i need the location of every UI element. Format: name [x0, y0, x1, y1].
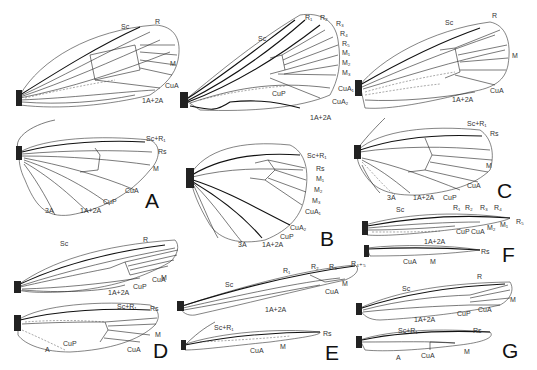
label-f-fw-cua: CuA — [471, 228, 485, 235]
label-b-hw-scr1: Sc+R₁ — [307, 152, 327, 159]
wing-e-hindwing — [181, 322, 320, 350]
label-c-hw-rs: Rs — [490, 130, 499, 137]
label-b-fw-r5: R₅ — [342, 40, 350, 47]
label-b-fw-r3: R₃ — [336, 20, 344, 27]
label-c-fw-r: R — [492, 12, 497, 19]
wing-g-hindwing — [356, 330, 491, 351]
label-f-fw-r3: R₃ — [480, 204, 488, 211]
label-b-fw-m3: M₃ — [342, 69, 351, 76]
label-e-fw-m: M — [342, 280, 348, 287]
wing-f-hindwing — [364, 245, 480, 257]
label-g-fw-cua: CuA — [478, 306, 492, 313]
label-f-fw-m2: M₂ — [487, 224, 496, 231]
wing-d-forewing — [14, 240, 178, 293]
label-f-fw-sc: Sc — [396, 206, 404, 213]
panel-letter-g: G — [502, 340, 518, 361]
label-b-hw-rs: Rs — [316, 165, 325, 172]
wing-b-hindwing — [186, 144, 307, 242]
panel-letter-f: F — [502, 244, 515, 265]
label-g-fw-r: R — [477, 273, 482, 280]
label-d-fw-cua: CuA — [152, 276, 166, 283]
label-c-hw-m: M — [486, 162, 492, 169]
label-b-fw-1a2a: 1A+2A — [310, 114, 331, 121]
label-f-fw-m1: M₁ — [500, 221, 508, 228]
label-e-hw-scr1: Sc+R₁ — [214, 324, 234, 331]
label-e-hw-rs: Rs — [323, 330, 332, 337]
label-c-fw-1a2a: 1A+2A — [452, 96, 473, 103]
label-g-hw-cua: CuA — [421, 352, 435, 359]
label-e-fw-cua: CuA — [325, 288, 339, 295]
wing-b-forewing — [180, 14, 340, 110]
label-d-fw-r: R — [143, 236, 148, 243]
label-d-hw-rs: Rs — [150, 305, 159, 312]
label-f-fw-cup: CuP — [456, 228, 470, 235]
label-a-hw-rs: Rs — [158, 148, 167, 155]
label-f-fw-1a2a: 1A+2A — [424, 238, 445, 245]
label-c-hw-cup: CuP — [443, 194, 457, 201]
label-b-hw-m3: M₃ — [312, 197, 321, 204]
wing-c-forewing — [355, 22, 509, 108]
label-g-fw-sc: Sc — [402, 285, 410, 292]
label-e-fw-sc: Sc — [225, 281, 233, 288]
label-c-hw-3a: 3A — [387, 194, 396, 201]
label-c-hw-scr1: Sc+R₁ — [467, 120, 487, 127]
label-a-hw-1a2a: 1A+2A — [80, 207, 101, 214]
label-f-hw-cua: CuA — [403, 258, 417, 265]
panel-letter-c: C — [497, 180, 512, 201]
label-b-fw-cua2: CuA₂ — [332, 98, 348, 105]
label-b-hw-cua1: CuA₁ — [305, 208, 321, 215]
label-b-fw-m1: M₁ — [342, 49, 350, 56]
wing-g-forewing — [356, 282, 512, 320]
label-a-fw-m: M — [170, 60, 176, 67]
label-c-fw-m: M — [512, 52, 518, 59]
label-b-fw-cua1: CuA₁ — [338, 85, 354, 92]
label-a-hw-3a: 3A — [45, 207, 54, 214]
label-g-fw-1a2a: 1A+2A — [414, 316, 435, 323]
label-a-fw-sc: Sc — [121, 23, 129, 30]
label-d-hw-scr1: Sc+R₁ — [117, 303, 137, 310]
label-e-fw-r2: R₂ — [311, 263, 319, 270]
label-d-fw-sc: Sc — [60, 240, 68, 247]
panel-letter-a: A — [145, 190, 159, 211]
label-e-fw-r3: R₃ — [329, 263, 337, 270]
label-b-fw-m2: M₂ — [342, 59, 351, 66]
label-e-hw-m: M — [280, 343, 286, 350]
label-e-fw-1a2a: 1A+2A — [265, 306, 286, 313]
label-d-hw-a: A — [45, 346, 50, 353]
label-e-fw-r1: R₁ — [283, 267, 290, 274]
label-a-hw-cup: CuP — [103, 198, 117, 205]
panel-letter-e: E — [325, 342, 339, 363]
label-c-fw-cua: CuA — [490, 87, 504, 94]
label-b-hw-cup: CuP — [280, 233, 294, 240]
label-g-hw-rs: Rs — [473, 327, 482, 334]
label-f-fw-r2: R₂ — [465, 204, 473, 211]
label-d-hw-m: M — [155, 331, 161, 338]
label-d-fw-cup: CuP — [133, 283, 147, 290]
label-f-hw-rs: Rs — [481, 248, 490, 255]
label-d-fw-1a2a: 1A+2A — [108, 289, 129, 296]
label-g-fw-cup: CuP — [457, 310, 471, 317]
label-f-fw-r4: R₄ — [494, 204, 502, 211]
label-g-hw-a: A — [396, 354, 401, 361]
label-c-hw-cua: CuA — [467, 182, 481, 189]
label-b-fw-r4: R₄ — [340, 30, 348, 37]
label-a-hw-scr1: Sc+R₁ — [146, 135, 166, 142]
label-a-hw-cua: CuA — [125, 187, 139, 194]
label-f-fw-r1: R₁ — [453, 204, 460, 211]
label-b-hw-1a2a: 1A+2A — [262, 241, 283, 248]
label-b-hw-3a: 3A — [238, 241, 247, 248]
wing-a-hindwing — [16, 120, 158, 215]
label-b-hw-m1: M₁ — [316, 175, 324, 182]
label-b-fw-r2: R₂ — [320, 14, 328, 21]
label-g-hw-m: M — [464, 348, 470, 355]
label-f-hw-m: M — [430, 258, 436, 265]
label-f-fw-r5: R₅ — [516, 218, 524, 225]
label-b-fw-r1: R₁ — [305, 14, 312, 21]
label-e-fw-r45: R₄₊₅ — [351, 260, 366, 267]
label-e-hw-cua: CuA — [250, 347, 264, 354]
label-c-fw-sc: Sc — [445, 19, 453, 26]
label-c-hw-1a2a: 1A+2A — [413, 194, 434, 201]
label-b-fw-cup: CuP — [272, 90, 286, 97]
label-a-fw-r: R — [155, 18, 160, 25]
label-b-hw-m2: M₂ — [314, 186, 323, 193]
